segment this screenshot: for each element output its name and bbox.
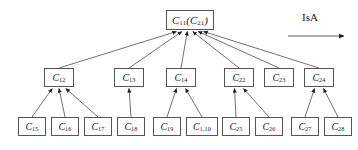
concept-node-label: C12	[52, 73, 65, 83]
concept-node-c26[interactable]: C26	[255, 117, 283, 136]
concept-node-c17[interactable]: C17	[84, 117, 112, 136]
concept-node-c27[interactable]: C27	[291, 117, 319, 136]
concept-node-c28[interactable]: C28	[324, 117, 352, 136]
concept-node-label: C22	[232, 73, 245, 83]
concept-node-c22[interactable]: C22	[224, 68, 254, 87]
isa-edge-c22-to-root	[193, 32, 239, 69]
concept-node-label: C13	[122, 73, 135, 83]
concept-node-root[interactable]: C11(C21)	[166, 10, 214, 30]
isa-edge-c15-to-c12	[32, 89, 52, 118]
isa-edge-c27-to-c24	[305, 89, 315, 118]
isa-edge-c25-to-c22	[235, 89, 237, 118]
isa-edge-c17-to-c12	[66, 89, 98, 118]
concept-node-label: C27	[298, 122, 311, 132]
concept-node-c24[interactable]: C24	[304, 68, 334, 87]
isa-edge-c23-to-root	[198, 32, 279, 69]
concept-node-label: C16	[58, 122, 71, 132]
concept-node-label: C15	[25, 122, 38, 132]
concept-node-c18[interactable]: C18	[117, 117, 145, 136]
concept-node-c15[interactable]: C15	[18, 117, 46, 136]
isa-edge-c24-to-root	[204, 32, 320, 69]
isa-edge-c16-to-c12	[59, 89, 65, 118]
concept-node-label: C24	[312, 73, 325, 83]
concept-node-label: C23	[272, 73, 285, 83]
legend-isa-label: IsA	[302, 11, 318, 23]
isa-edge-c110-to-c14	[186, 89, 203, 118]
concept-node-label: C17	[91, 122, 104, 132]
concept-node-c19[interactable]: C19	[153, 117, 181, 136]
concept-node-c13[interactable]: C13	[114, 68, 144, 87]
concept-node-label: C11(C21)	[172, 15, 208, 26]
concept-node-label: C26	[262, 122, 275, 132]
isa-edge-c18-to-c13	[129, 89, 131, 118]
concept-node-label: C18	[124, 122, 137, 132]
concept-node-label: C14	[174, 73, 187, 83]
concept-node-label: C1,10	[193, 122, 211, 132]
isa-edge-c14-to-root	[181, 32, 187, 69]
concept-node-label: C25	[229, 122, 242, 132]
concept-node-c12[interactable]: C12	[44, 68, 74, 87]
concept-node-label: C28	[331, 122, 344, 132]
concept-node-c25[interactable]: C25	[222, 117, 250, 136]
isa-edge-c12-to-root	[59, 32, 177, 69]
concept-node-label: C19	[160, 122, 173, 132]
concept-node-c110[interactable]: C1,10	[186, 117, 218, 136]
concept-node-c14[interactable]: C14	[166, 68, 196, 87]
concept-node-c23[interactable]: C23	[264, 68, 294, 87]
isa-edge-c28-to-c24	[324, 89, 339, 118]
concept-node-c16[interactable]: C16	[51, 117, 79, 136]
isa-hierarchy-diagram: C11(C21)C12C13C14C22C23C24C15C16C17C18C1…	[0, 0, 358, 150]
isa-edge-c13-to-root	[129, 32, 182, 69]
isa-edge-c26-to-c22	[244, 89, 270, 118]
isa-edge-c19-to-c14	[167, 89, 177, 118]
